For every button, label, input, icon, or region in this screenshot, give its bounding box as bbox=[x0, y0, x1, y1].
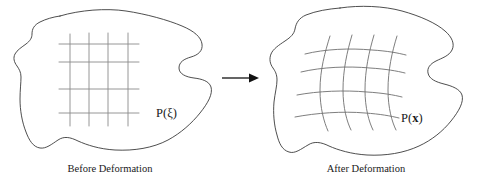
deformed-grid-hline-1 bbox=[305, 49, 406, 55]
undeformed-point-label-prefix: P( bbox=[156, 106, 167, 120]
deformed-grid bbox=[295, 35, 406, 131]
after-deformation-caption: After Deformation bbox=[327, 163, 406, 174]
undeformed-point-label: P(ξ) bbox=[156, 106, 177, 120]
before-deformation-group: P(ξ) Before Deformation bbox=[14, 10, 211, 174]
deformed-grid-hline-3 bbox=[297, 91, 402, 97]
undeformed-grid bbox=[59, 33, 139, 126]
deformed-point-label-suffix: ) bbox=[418, 111, 422, 125]
deformed-point-label: P(x) bbox=[401, 111, 423, 125]
deformed-grid-hline-4 bbox=[295, 112, 399, 118]
deformed-point-label-prefix: P( bbox=[401, 111, 412, 125]
arrow-head bbox=[249, 74, 259, 83]
after-deformation-group: P(x) After Deformation bbox=[270, 6, 462, 174]
deformation-arrow bbox=[222, 74, 259, 83]
before-deformation-caption: Before Deformation bbox=[68, 163, 154, 174]
undeformed-point-label-suffix: ) bbox=[173, 106, 177, 120]
undeformed-body-outline bbox=[14, 10, 211, 151]
deformation-figure: P(ξ) Before Deformation P(x) After Defor… bbox=[0, 0, 484, 189]
deformed-body-outline bbox=[270, 6, 462, 155]
